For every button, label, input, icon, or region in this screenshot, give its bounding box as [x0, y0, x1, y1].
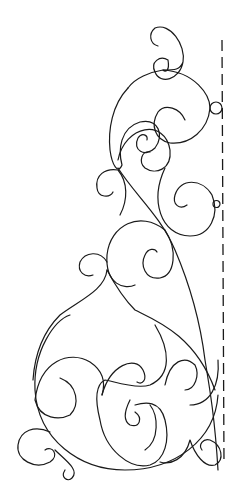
filigree-drawing: [0, 0, 239, 495]
lower-circle: [35, 315, 218, 470]
lower-center-swirl: [125, 400, 156, 450]
upper-inner-swirl: [118, 129, 170, 171]
lower-mid-swirl: [102, 363, 145, 395]
right-marker-circle-top: [210, 102, 222, 114]
lower-right-swirl: [165, 360, 218, 405]
bottom-left-flourish: [18, 429, 74, 480]
upper-left-swirl: [110, 88, 160, 169]
mid-left-small-curl: [97, 170, 126, 215]
dashed-guide-line: [222, 40, 224, 465]
stem-right: [107, 270, 215, 390]
lower-left-swirl: [35, 357, 104, 418]
stem-left: [33, 270, 107, 380]
mid-right-swirl: [158, 168, 215, 236]
mid-diagonal: [118, 168, 218, 470]
inner-teardrop: [97, 325, 167, 466]
left-small-curl: [79, 254, 107, 276]
center-swirl: [107, 221, 173, 287]
top-scroll: [128, 27, 183, 88]
upper-loop: [154, 70, 210, 143]
